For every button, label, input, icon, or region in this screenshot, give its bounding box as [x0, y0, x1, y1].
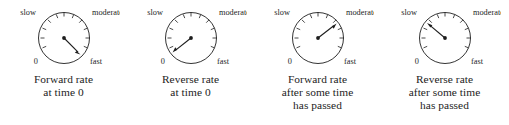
gauge-panel: slow moderate 0 fast Reverse rate after …: [381, 0, 508, 125]
caption-line: has passed: [384, 99, 506, 112]
gauge-caption: Reverse rate after some time has passed: [384, 73, 506, 113]
caption-line: Forward rate: [3, 73, 125, 86]
caption-line: after some time: [257, 86, 379, 99]
gauge-panel: slow moderate 0 fast Forward rate after …: [254, 0, 381, 125]
dial-label-fast: fast: [90, 57, 103, 66]
gauge-dial-svg: slow moderate 0 fast: [135, 6, 247, 70]
dial-label-fast: fast: [471, 57, 484, 66]
needle-hub: [62, 36, 66, 40]
dial-label-zero: 0: [33, 57, 37, 66]
gauge-forward-rate-time-0: slow moderate 0 fast: [8, 6, 120, 70]
gauge-dial-svg: slow moderate 0 fast: [389, 6, 501, 70]
caption-line: Reverse rate: [130, 73, 252, 86]
dial-label-fast: fast: [217, 57, 230, 66]
dial-label-zero: 0: [414, 57, 418, 66]
caption-line: Forward rate: [257, 73, 379, 86]
caption-line: Reverse rate: [384, 73, 506, 86]
gauge-reverse-rate-after-time: slow moderate 0 fast: [389, 6, 501, 70]
dial-label-fast: fast: [344, 57, 357, 66]
gauge-needle: [64, 38, 81, 55]
gauge-needle: [318, 24, 337, 38]
gauge-dial-svg: slow moderate 0 fast: [8, 6, 120, 70]
dial-label-zero: 0: [287, 57, 291, 66]
gauge-panel: slow moderate 0 fast Forward rate at tim…: [0, 0, 127, 125]
gauge-figure: slow moderate 0 fast Forward rate at tim…: [0, 0, 509, 125]
needle-hub: [316, 36, 320, 40]
dial-label-slow: slow: [147, 8, 163, 17]
dial-label-slow: slow: [401, 8, 417, 17]
gauge-caption: Forward rate at time 0: [3, 73, 125, 99]
caption-line: has passed: [257, 99, 379, 112]
gauge-needle: [426, 23, 444, 38]
needle-hub: [189, 36, 193, 40]
dial-label-moderate: moderate: [473, 8, 501, 17]
dial-label-moderate: moderate: [219, 8, 247, 17]
gauge-needle: [172, 38, 190, 52]
caption-line: at time 0: [130, 86, 252, 99]
caption-line: at time 0: [3, 86, 125, 99]
dial-label-moderate: moderate: [346, 8, 374, 17]
gauge-forward-rate-after-time: slow moderate 0 fast: [262, 6, 374, 70]
gauge-caption: Forward rate after some time has passed: [257, 73, 379, 113]
gauge-caption: Reverse rate at time 0: [130, 73, 252, 99]
gauge-panel: slow moderate 0 fast Reverse rate at tim…: [127, 0, 254, 125]
dial-label-slow: slow: [274, 8, 290, 17]
gauge-dial-svg: slow moderate 0 fast: [262, 6, 374, 70]
dial-label-zero: 0: [160, 57, 164, 66]
dial-label-slow: slow: [20, 8, 36, 17]
gauge-reverse-rate-time-0: slow moderate 0 fast: [135, 6, 247, 70]
caption-line: after some time: [384, 86, 506, 99]
dial-label-moderate: moderate: [92, 8, 120, 17]
needle-hub: [443, 36, 447, 40]
